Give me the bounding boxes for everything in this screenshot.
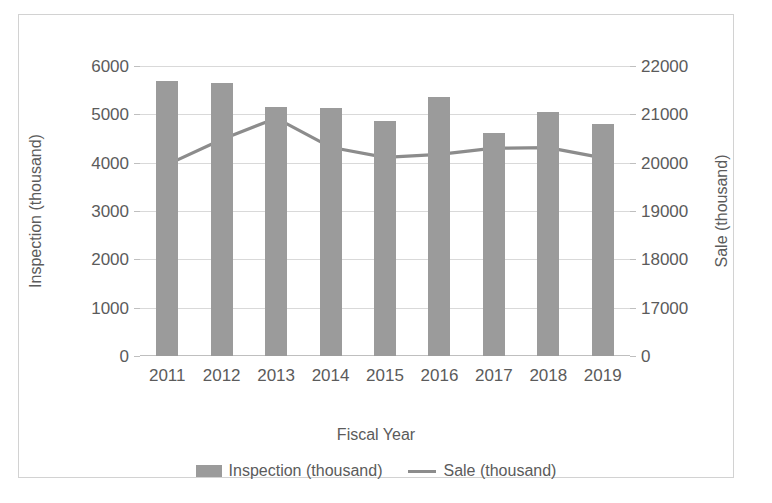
bar-2011[interactable]	[156, 81, 178, 357]
right-axis-tick-label: 21000	[641, 106, 688, 123]
x-axis-tick-label-2015: 2015	[366, 367, 404, 384]
left-axis-tick	[134, 308, 140, 309]
legend-item-sale[interactable]: Sale (thousand)	[408, 462, 556, 480]
gridline	[140, 66, 630, 67]
x-axis-tick-label-2013: 2013	[257, 367, 295, 384]
legend-item-inspection[interactable]: Inspection (thousand)	[196, 462, 383, 480]
bar-2015[interactable]	[374, 121, 396, 356]
right-axis-title: Sale (thousand)	[713, 155, 731, 268]
left-axis-tick-label: 1000	[91, 299, 129, 316]
left-axis-title: Inspection (thousand)	[27, 134, 45, 288]
legend-label-inspection: Inspection (thousand)	[229, 462, 383, 480]
left-axis-tick-label: 6000	[91, 58, 129, 75]
left-axis-tick-label: 0	[120, 348, 129, 365]
right-axis-tick	[630, 114, 636, 115]
bar-2016[interactable]	[428, 97, 450, 356]
right-axis-tick-label: 20000	[641, 154, 688, 171]
bar-2012[interactable]	[211, 83, 233, 356]
left-axis-tick	[134, 114, 140, 115]
x-axis-tick-label-2012: 2012	[203, 367, 241, 384]
x-axis-tick-label-2011: 2011	[149, 367, 186, 384]
left-axis-tick	[134, 211, 140, 212]
x-axis-title: Fiscal Year	[19, 426, 733, 444]
legend-label-sale: Sale (thousand)	[443, 462, 556, 480]
left-axis-tick	[134, 259, 140, 260]
left-axis-tick	[134, 163, 140, 164]
left-axis-tick-label: 2000	[91, 251, 129, 268]
right-axis-tick-label: 22000	[641, 58, 688, 75]
plot-area: 6000500040003000200010000220002100020000…	[140, 66, 630, 356]
right-axis-tick	[630, 163, 636, 164]
bar-2013[interactable]	[265, 107, 287, 356]
bar-2019[interactable]	[592, 124, 614, 356]
x-axis-tick-label-2014: 2014	[312, 367, 350, 384]
x-axis-tick-label-2019: 2019	[584, 367, 622, 384]
right-axis-tick	[630, 66, 636, 67]
left-axis-tick-label: 5000	[91, 106, 129, 123]
right-axis-tick-label: 18000	[641, 251, 688, 268]
left-axis-tick-label: 4000	[91, 154, 129, 171]
chart-container: Inspection (thousand) Sale (thousand) 60…	[18, 14, 734, 478]
bar-swatch-icon	[196, 465, 222, 477]
right-axis-tick	[630, 308, 636, 309]
x-axis-tick-label-2016: 2016	[421, 367, 459, 384]
bar-2018[interactable]	[537, 112, 559, 356]
x-axis-tick-label-2018: 2018	[529, 367, 567, 384]
right-axis-tick-label: 17000	[641, 299, 688, 316]
left-axis-tick	[134, 66, 140, 67]
bar-2014[interactable]	[320, 108, 342, 356]
right-axis-tick-label: 0	[641, 348, 650, 365]
right-axis-tick-label: 19000	[641, 203, 688, 220]
left-axis-tick	[134, 356, 140, 357]
right-axis-tick	[630, 356, 636, 357]
line-swatch-icon	[408, 470, 436, 473]
x-axis-tick-label-2017: 2017	[475, 367, 513, 384]
right-axis-tick	[630, 211, 636, 212]
bar-2017[interactable]	[483, 133, 505, 356]
chart-legend: Inspection (thousand) Sale (thousand)	[19, 462, 733, 480]
left-axis-tick-label: 3000	[91, 203, 129, 220]
right-axis-tick	[630, 259, 636, 260]
